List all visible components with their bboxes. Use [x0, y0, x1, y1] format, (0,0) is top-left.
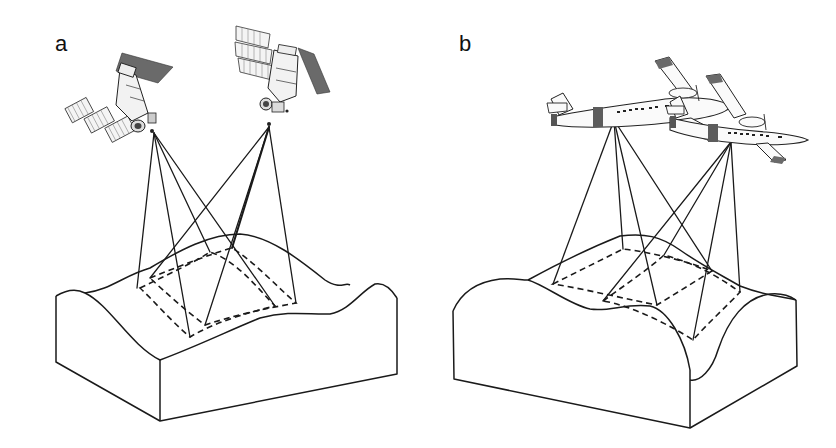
- footprint-b2: [603, 255, 740, 340]
- terrain-block-b: [453, 235, 797, 428]
- terrain-block-a: [56, 234, 397, 421]
- panel-b: [453, 57, 808, 428]
- footprint-a2: [150, 248, 296, 325]
- panel-a: [56, 26, 397, 421]
- figure: a b: [0, 0, 836, 448]
- view-rays-sat1: [137, 133, 275, 337]
- view-rays-sat2: [150, 127, 296, 325]
- view-rays-plane1: [553, 120, 712, 305]
- view-rays-plane2: [603, 142, 740, 340]
- diagram-canvas: [0, 0, 836, 448]
- footprint-b1: [553, 249, 712, 305]
- satellite-icon: [235, 26, 330, 126]
